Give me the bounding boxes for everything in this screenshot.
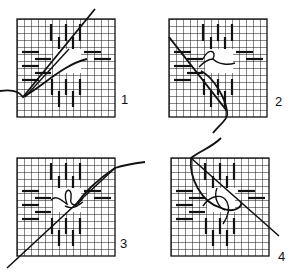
- step-label-2: 2: [275, 94, 282, 109]
- panel-step-2: [169, 19, 267, 133]
- panel-step-1: [0, 9, 115, 117]
- step-label-4: 4: [278, 249, 285, 264]
- stitch-diagram: [0, 0, 292, 273]
- step-label-1: 1: [121, 92, 128, 107]
- step-label-3: 3: [120, 236, 127, 251]
- panel-step-4: [171, 138, 279, 256]
- panel-step-3: [7, 158, 145, 268]
